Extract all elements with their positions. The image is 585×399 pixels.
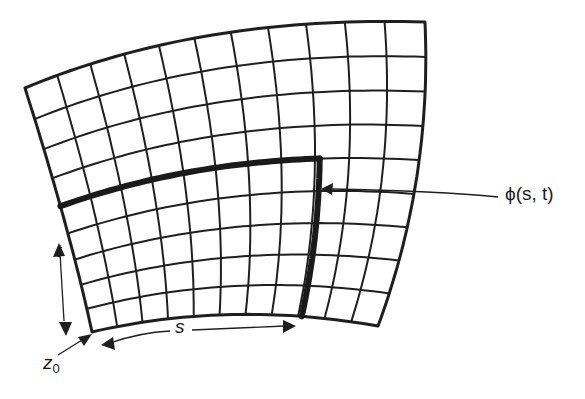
grid-row-line: [75, 223, 407, 260]
arrowhead-right-icon: [283, 320, 296, 333]
arrowhead-left-icon: [101, 337, 115, 350]
grid-column-line: [268, 28, 282, 315]
grid-row-line: [87, 285, 389, 309]
grid-row-line: [44, 91, 425, 150]
subscript-text: 0: [53, 361, 60, 376]
grid-column-line: [194, 38, 221, 315]
phi-text: ϕ(s, t): [505, 183, 554, 204]
grid-column-line: [231, 32, 251, 314]
point-label-phi: ϕ(s, t): [505, 183, 554, 205]
arrowhead-icon: [321, 183, 333, 195]
grid-column-line: [351, 21, 387, 321]
grid-row-line: [81, 255, 399, 285]
t-axis-label: t: [56, 240, 61, 262]
grid-row-line: [35, 56, 426, 119]
surface-grid-diagram: [0, 0, 585, 399]
z-text: z: [43, 352, 53, 373]
origin-label-z0: z0: [43, 352, 60, 376]
grid-lines: [35, 21, 426, 326]
z0-pointer-arrow: [58, 334, 92, 355]
arrowhead-down-icon: [59, 322, 72, 336]
s-axis-label: s: [175, 316, 185, 338]
grid-column-line: [325, 22, 351, 318]
arrowhead-icon: [78, 334, 92, 346]
